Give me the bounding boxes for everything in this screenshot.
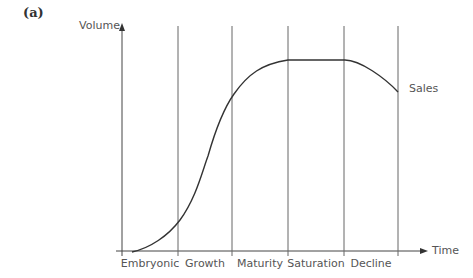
stage-label-maturity: Maturity — [237, 257, 283, 270]
sales-curve — [132, 60, 398, 252]
x-axis-label: Time — [432, 244, 459, 257]
x-axis-arrow-icon — [420, 248, 428, 254]
stage-label-saturation: Saturation — [287, 257, 344, 270]
product-life-cycle-diagram — [0, 0, 473, 278]
y-axis-label: Volume — [79, 19, 120, 32]
stage-label-embryonic: Embryonic — [121, 257, 180, 270]
curve-label: Sales — [409, 82, 438, 95]
stage-label-decline: Decline — [350, 257, 391, 270]
stage-label-growth: Growth — [185, 257, 225, 270]
